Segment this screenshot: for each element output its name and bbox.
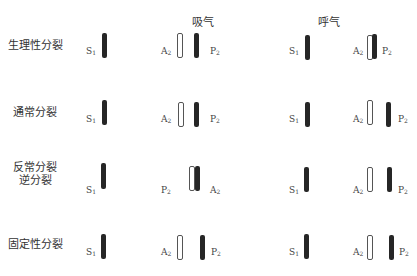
a2-label: A2 bbox=[210, 185, 220, 195]
a2-label: A2 bbox=[161, 114, 171, 124]
s1-bar bbox=[305, 102, 310, 127]
a2-bar-open bbox=[367, 100, 373, 125]
s1-label: S1 bbox=[289, 46, 299, 56]
a2-bar-open bbox=[177, 33, 183, 58]
s1-bar bbox=[304, 234, 309, 259]
p2-label: P2 bbox=[161, 185, 171, 195]
s1-label: S1 bbox=[86, 185, 96, 195]
s1-bar bbox=[101, 234, 106, 259]
s1-bar bbox=[102, 100, 107, 125]
a2-label: A2 bbox=[353, 185, 363, 195]
p2-bar bbox=[372, 34, 377, 59]
s1-bar bbox=[305, 35, 310, 60]
p2-bar bbox=[194, 102, 199, 127]
a2-label: A2 bbox=[353, 114, 363, 124]
a2-bar-open bbox=[367, 167, 373, 192]
p2-bar bbox=[389, 235, 394, 260]
s1-label: S1 bbox=[86, 114, 96, 124]
a2-bar bbox=[195, 166, 200, 191]
s1-label: S1 bbox=[289, 185, 299, 195]
p2-label: P2 bbox=[211, 247, 221, 257]
p2-bar bbox=[387, 167, 392, 192]
p2-label: P2 bbox=[210, 46, 220, 56]
row-label-fixed: 固定性分裂 bbox=[5, 238, 65, 251]
s1-bar bbox=[101, 163, 106, 189]
a2-bar-open bbox=[367, 235, 373, 260]
s1-bar bbox=[102, 33, 107, 58]
a2-label: A2 bbox=[161, 247, 171, 257]
s1-label: S1 bbox=[289, 114, 299, 124]
a2-bar-open bbox=[177, 235, 183, 260]
p2-label: P2 bbox=[399, 247, 409, 257]
p2-label: P2 bbox=[382, 46, 392, 56]
p2-bar bbox=[194, 33, 199, 58]
p2-label: P2 bbox=[398, 114, 408, 124]
row-label-paradoxical: 反常分裂逆分裂 bbox=[5, 161, 65, 187]
p2-label: P2 bbox=[398, 185, 408, 195]
row-label-wide: 通常分裂 bbox=[5, 106, 65, 119]
a2-label: A2 bbox=[353, 247, 363, 257]
a2-label: A2 bbox=[161, 46, 171, 56]
a2-label: A2 bbox=[353, 46, 363, 56]
p2-bar bbox=[200, 235, 205, 260]
row-label-physiologic: 生理性分裂 bbox=[5, 39, 65, 52]
header-inspiration: 吸气 bbox=[192, 13, 214, 29]
header-expiration: 呼气 bbox=[318, 13, 340, 29]
p2-label: P2 bbox=[210, 114, 220, 124]
s1-label: S1 bbox=[86, 46, 96, 56]
p2-bar bbox=[386, 102, 391, 127]
a2-bar-open bbox=[178, 102, 184, 127]
s1-label: S1 bbox=[86, 247, 96, 257]
s1-label: S1 bbox=[289, 247, 299, 257]
s1-bar bbox=[304, 167, 309, 192]
